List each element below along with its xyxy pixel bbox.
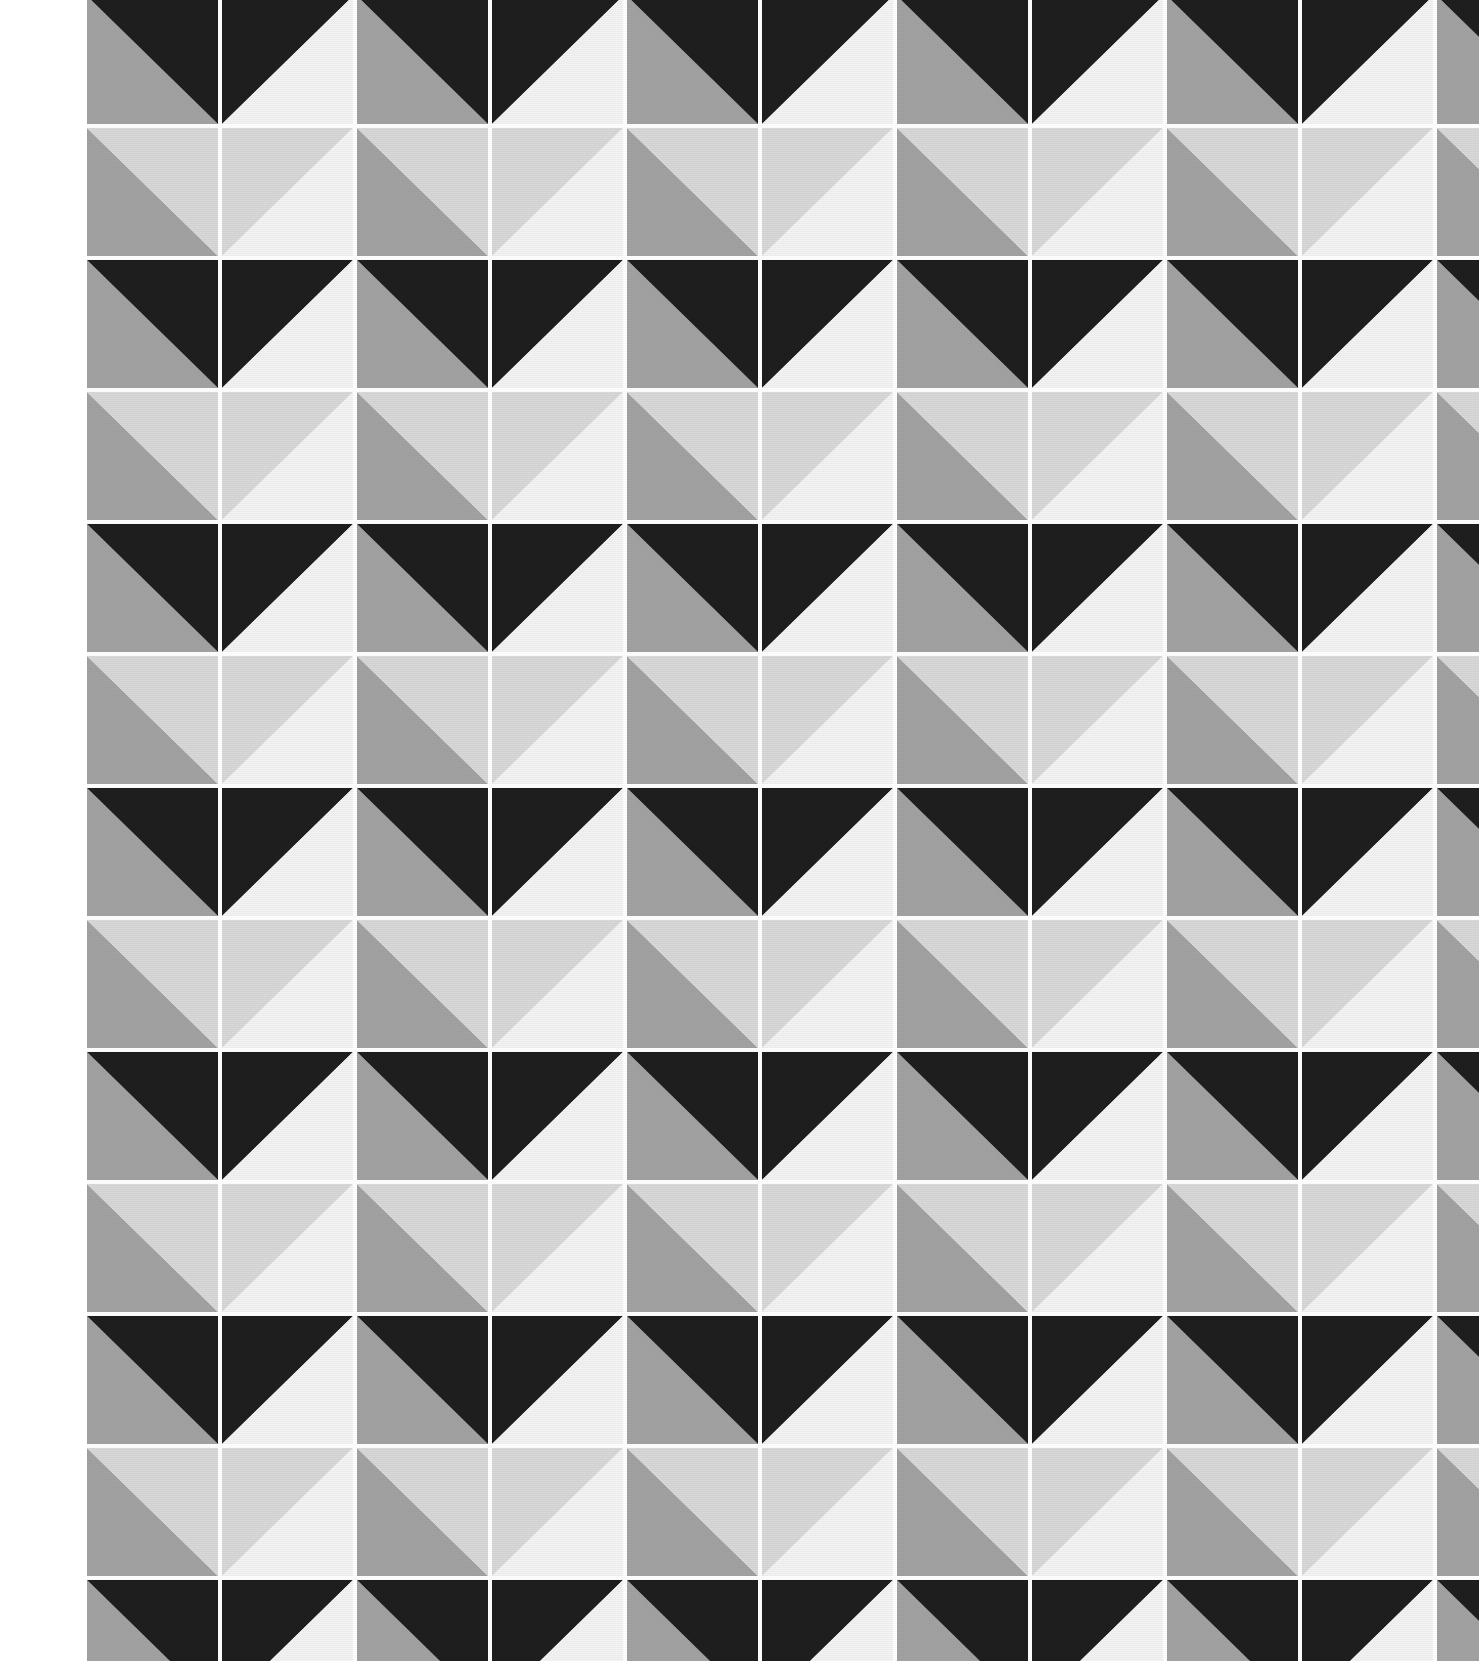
triangle-tile-pattern	[0, 0, 1479, 1661]
image-canvas	[0, 0, 1479, 1661]
left-selvedge-margin	[0, 0, 87, 1661]
